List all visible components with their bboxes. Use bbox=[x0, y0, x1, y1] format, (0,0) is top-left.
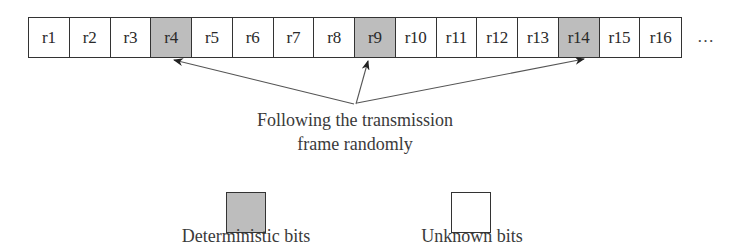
legend-label-deterministic: Deterministic bits bbox=[146, 226, 346, 247]
annotation-line-2: frame randomly bbox=[200, 134, 510, 155]
annotation-line-1: Following the transmission bbox=[200, 110, 510, 131]
arrow-to-r4 bbox=[174, 60, 354, 104]
arrow-to-r14 bbox=[357, 59, 584, 103]
arrow-to-r9 bbox=[356, 61, 368, 104]
legend-label-unknown: Unknown bits bbox=[372, 226, 572, 247]
